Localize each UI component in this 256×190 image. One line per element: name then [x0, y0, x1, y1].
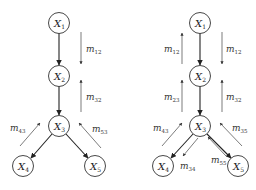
arrow-down-icon — [183, 138, 198, 156]
message-m35: m35 — [220, 123, 248, 146]
node-x4: X4 — [13, 156, 34, 177]
message-m12-up: m12 — [164, 33, 182, 64]
node-x3: X3 — [49, 116, 70, 137]
node-x2: X2 — [190, 66, 211, 87]
message-m12: m12 — [81, 32, 102, 64]
message-m43: m43 — [10, 123, 40, 146]
message-label: m43 — [10, 123, 26, 134]
node-x1: X1 — [49, 13, 70, 34]
message-label: m23 — [164, 92, 180, 103]
message-label: m12 — [164, 44, 180, 55]
message-m53: m53 — [79, 123, 108, 148]
message-label: m34 — [180, 161, 196, 172]
edge-x3-x4 — [31, 134, 52, 158]
message-m12-down: m12 — [222, 32, 242, 64]
message-m43: m43 — [153, 123, 182, 146]
message-label: m12 — [226, 44, 242, 55]
arrow-up-icon — [162, 123, 182, 146]
message-label: m12 — [86, 44, 102, 55]
message-label: m53 — [92, 124, 108, 135]
node-x1: X1 — [190, 13, 211, 34]
message-label: m43 — [153, 123, 169, 134]
message-m34: m34 — [180, 138, 198, 172]
message-passing-diagram: m12 m32 m43 m53 X1 X2 X3 X4 — [0, 0, 256, 190]
message-label: m32 — [86, 92, 102, 103]
node-x5: X5 — [85, 156, 106, 177]
node-x3: X3 — [190, 116, 211, 137]
message-label: m35 — [232, 123, 248, 134]
message-label: m55 — [211, 155, 227, 166]
left-panel: m12 m32 m43 m53 X1 X2 X3 X4 — [10, 13, 108, 177]
node-x5: X5 — [228, 156, 249, 177]
edge-x3-x5 — [66, 134, 88, 158]
right-panel: m12 m12 m23 m32 m43 m34 m55 m35 — [153, 13, 249, 177]
message-m23: m23 — [164, 80, 182, 112]
arrow-up-icon — [20, 123, 40, 146]
edge-x3-x4 — [171, 134, 193, 158]
arrow-up-icon — [208, 137, 226, 156]
message-m32: m32 — [222, 80, 242, 112]
message-label: m32 — [226, 92, 242, 103]
node-x2: X2 — [49, 66, 70, 87]
node-x4: X4 — [153, 156, 174, 177]
message-m32: m32 — [81, 80, 102, 112]
